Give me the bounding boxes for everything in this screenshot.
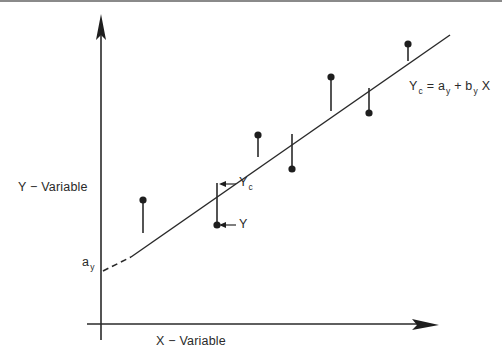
regression-equation: Yc = ay + by X [409, 79, 490, 93]
data-point [365, 109, 372, 116]
intercept-label-sub: y [90, 262, 94, 272]
data-point [254, 131, 261, 138]
eq-lhs: Y [409, 79, 418, 93]
data-points [139, 40, 411, 233]
yc-label-base: Y [239, 175, 248, 189]
diagram-canvas: Y − Variable X − Variable ay Yc Y Yc = a… [0, 0, 502, 359]
yc-label-sub: c [249, 182, 253, 192]
y-axis-label: Y − Variable [18, 180, 88, 194]
eq-a-sub: y [446, 86, 450, 96]
x-axis-label: X − Variable [156, 334, 226, 348]
data-point [327, 73, 334, 80]
data-point [288, 165, 295, 172]
yc-callout-label: Yc [239, 175, 253, 189]
regression-line-extension [103, 257, 131, 271]
eq-lhs-sub: c [419, 86, 423, 96]
eq-b: b [465, 79, 472, 93]
regression-line [131, 35, 450, 257]
intercept-label-base: a [82, 255, 89, 269]
eq-x: X [482, 79, 491, 93]
y-callout-label: Y [239, 217, 248, 231]
eq-a: a [438, 79, 445, 93]
intercept-label: ay [82, 255, 95, 269]
eq-plus: + [454, 79, 462, 93]
data-point [139, 196, 146, 203]
eq-b-sub: y [474, 86, 478, 96]
y-arrowhead-icon [219, 222, 226, 228]
yc-arrowhead-icon [219, 181, 226, 187]
data-point [404, 40, 411, 47]
eq-equals: = [427, 79, 435, 93]
